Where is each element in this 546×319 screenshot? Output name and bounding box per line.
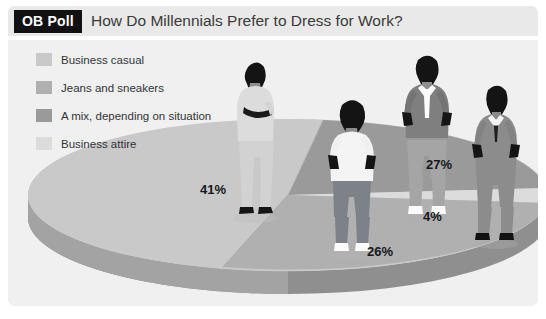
pct-label-jeans-sneakers: 26% (367, 244, 393, 259)
pct-label-business-casual: 41% (200, 182, 226, 197)
legend-label-jeans-sneakers: Jeans and sneakers (61, 82, 164, 94)
figure-woman-business-casual (220, 55, 290, 230)
legend: Business casual Jeans and sneakers A mix… (36, 48, 211, 160)
chart-plate: 41% 26% 27% 4% Business casual Jeans and… (8, 40, 538, 306)
pct-label-mix: 27% (426, 157, 452, 172)
legend-label-business-attire: Business attire (61, 138, 136, 150)
ob-poll-badge: OB Poll (14, 10, 82, 33)
legend-item-mix: A mix, depending on situation (36, 104, 211, 127)
legend-item-business-casual: Business casual (36, 48, 211, 71)
poll-infographic: OB Poll How Do Millennials Prefer to Dre… (0, 0, 546, 319)
figure-woman-jeans-sneakers (316, 95, 388, 265)
header-bar: OB Poll How Do Millennials Prefer to Dre… (8, 6, 538, 36)
page-title: How Do Millennials Prefer to Dress for W… (91, 12, 403, 30)
legend-swatch-jeans-sneakers (36, 81, 52, 94)
figure-man-business-attire (460, 82, 532, 254)
legend-swatch-business-attire (36, 137, 52, 150)
legend-item-business-attire: Business attire (36, 132, 211, 155)
legend-label-business-casual: Business casual (61, 54, 144, 66)
pct-label-business-attire: 4% (423, 209, 442, 224)
legend-item-jeans-sneakers: Jeans and sneakers (36, 76, 211, 99)
legend-label-mix: A mix, depending on situation (61, 110, 211, 122)
legend-swatch-mix (36, 109, 52, 122)
figure-man-mixed-blazer-sneakers (391, 52, 463, 230)
legend-swatch-business-casual (36, 53, 52, 66)
